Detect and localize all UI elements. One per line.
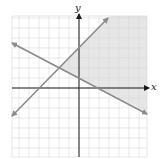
coordinate-plane xyxy=(0,0,164,159)
y-axis-label: y xyxy=(75,3,81,13)
shaded-solution-region xyxy=(59,16,147,112)
x-axis-label: x xyxy=(151,82,157,92)
shaded-region xyxy=(59,16,147,112)
